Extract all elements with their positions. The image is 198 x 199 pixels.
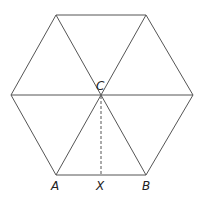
label-c: C <box>96 79 105 93</box>
label-a: A <box>50 179 59 193</box>
hexagon-diagram: C A X B <box>0 0 198 199</box>
label-x: X <box>95 179 105 193</box>
label-b: B <box>142 179 150 193</box>
